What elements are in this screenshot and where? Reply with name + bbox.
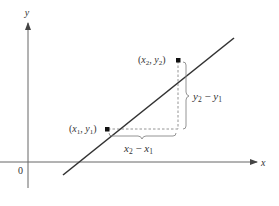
origin-label: 0 bbox=[18, 165, 23, 176]
point-2-label: (x2, y2) bbox=[138, 54, 166, 67]
point-1-label: (x1, y1) bbox=[69, 123, 97, 136]
run-brace bbox=[109, 133, 176, 139]
point-1-marker bbox=[105, 127, 110, 132]
y-axis-label: y bbox=[24, 7, 30, 18]
slope-diagram: y x 0 (x1, y1) (x2, y2) y2 − y1 x2 − x1 bbox=[0, 0, 279, 206]
x-axis-label: x bbox=[260, 157, 266, 168]
rise-label: y2 − y1 bbox=[192, 90, 222, 104]
point-2-marker bbox=[176, 58, 181, 63]
rise-brace bbox=[183, 62, 189, 129]
run-label: x2 − x1 bbox=[123, 142, 153, 156]
